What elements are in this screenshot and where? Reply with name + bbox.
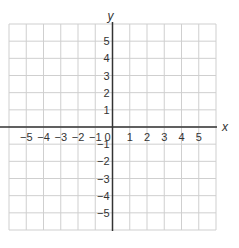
x-tick-label: −3 xyxy=(54,131,67,143)
x-tick-label: −2 xyxy=(72,131,85,143)
x-tick-label: −5 xyxy=(20,131,33,143)
y-tick-label: 1 xyxy=(103,104,109,116)
x-tick-label: 2 xyxy=(144,131,150,143)
y-tick-label: −1 xyxy=(97,138,110,150)
x-tick-label: 3 xyxy=(161,131,167,143)
y-tick-label: −4 xyxy=(97,190,110,202)
x-axis-label: x xyxy=(221,120,229,134)
coordinate-plane: −5−4−3−2−1012345 54321−1−2−3−4−5 x y xyxy=(0,0,239,248)
y-tick-label: 4 xyxy=(103,52,109,64)
y-tick-label: 3 xyxy=(103,70,109,82)
y-tick-label: −5 xyxy=(97,207,110,219)
y-axis-label: y xyxy=(107,9,115,23)
x-tick-label: 1 xyxy=(127,131,133,143)
y-tick-label: −2 xyxy=(97,155,110,167)
x-tick-label: −4 xyxy=(37,131,50,143)
y-tick-label: −3 xyxy=(97,173,110,185)
x-tick-label: 4 xyxy=(178,131,184,143)
y-tick-label: 5 xyxy=(103,35,109,47)
x-tick-labels: −5−4−3−2−1012345 xyxy=(20,131,202,143)
x-tick-label: 5 xyxy=(196,131,202,143)
y-tick-label: 2 xyxy=(103,87,109,99)
